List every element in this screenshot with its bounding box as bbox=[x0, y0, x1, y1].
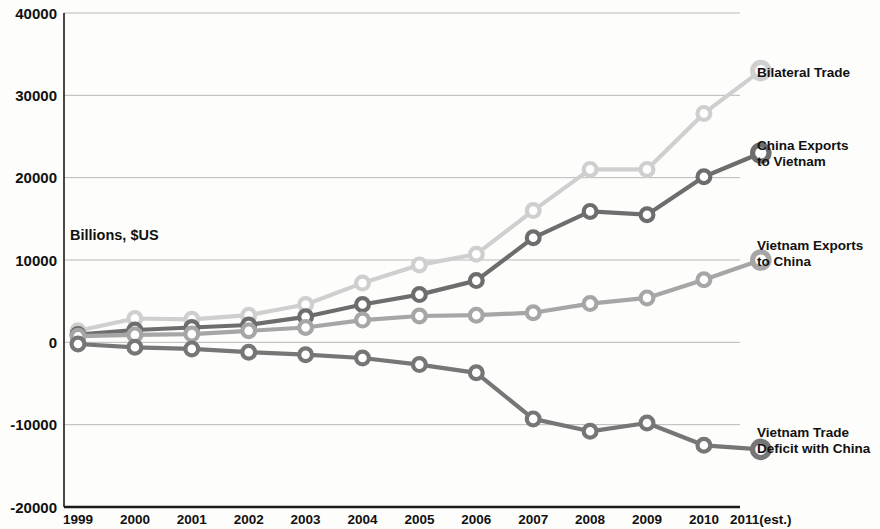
y-gridlines: 400003000020000100000-10000-20000 bbox=[10, 5, 740, 516]
data-point-marker bbox=[584, 205, 597, 218]
x-axis-tick-label: 2007 bbox=[518, 512, 548, 527]
x-axis-tick-label: 2011(est.) bbox=[730, 512, 792, 527]
x-axis-tick-label: 2001 bbox=[177, 512, 208, 527]
data-point-marker bbox=[185, 343, 198, 356]
series-label-2: China Exportsto Vietnam bbox=[757, 138, 849, 169]
series-label-line: to Vietnam bbox=[757, 154, 826, 169]
data-point-marker bbox=[299, 321, 312, 334]
y-axis-unit-note: Billions, $US bbox=[70, 227, 159, 243]
data-point-marker bbox=[527, 413, 540, 426]
series-label-line: to China bbox=[757, 254, 811, 269]
y-axis-tick-label: -20000 bbox=[10, 499, 57, 516]
data-point-marker bbox=[413, 259, 426, 272]
x-axis-tick-label: 2004 bbox=[347, 512, 378, 527]
data-point-marker bbox=[470, 366, 483, 379]
data-point-marker bbox=[584, 297, 597, 310]
series-label-line: Vietnam Trade bbox=[757, 425, 850, 440]
x-axis-tick-label: 2003 bbox=[291, 512, 322, 527]
line-chart: 400003000020000100000-10000-200001999200… bbox=[0, 0, 880, 529]
data-point-marker bbox=[641, 208, 654, 221]
data-point-marker bbox=[242, 324, 255, 337]
series-line bbox=[78, 153, 761, 335]
data-point-marker bbox=[641, 163, 654, 176]
data-point-marker bbox=[413, 310, 426, 323]
series-label-line: China Exports bbox=[757, 138, 849, 153]
series-label-line: Deficit with China bbox=[757, 441, 871, 456]
data-point-marker bbox=[698, 107, 711, 120]
data-point-marker bbox=[129, 341, 142, 354]
data-point-marker bbox=[413, 358, 426, 371]
x-axis-tick-label: 2005 bbox=[404, 512, 435, 527]
data-point-marker bbox=[527, 204, 540, 217]
data-point-marker bbox=[698, 273, 711, 286]
data-point-marker bbox=[584, 163, 597, 176]
x-axis-tick-label: 2009 bbox=[632, 512, 662, 527]
x-axis-tick-label: 1999 bbox=[63, 512, 93, 527]
y-axis-tick-label: -10000 bbox=[10, 416, 57, 433]
series-label-line: Bilateral Trade bbox=[757, 65, 851, 80]
data-point-marker bbox=[242, 346, 255, 359]
data-point-marker bbox=[698, 170, 711, 183]
x-axis-tick-label: 2006 bbox=[461, 512, 492, 527]
series-label-4: Vietnam TradeDeficit with China bbox=[757, 425, 871, 456]
y-axis-tick-label: 20000 bbox=[15, 169, 57, 186]
data-point-marker bbox=[413, 288, 426, 301]
x-axis-tick-label: 2010 bbox=[689, 512, 719, 527]
data-point-marker bbox=[356, 314, 369, 327]
x-axis-tick-label: 2008 bbox=[575, 512, 606, 527]
data-point-marker bbox=[72, 338, 85, 351]
data-point-marker bbox=[527, 231, 540, 244]
data-point-marker bbox=[584, 425, 597, 438]
y-axis-tick-label: 10000 bbox=[15, 252, 57, 269]
y-axis-tick-label: 30000 bbox=[15, 87, 57, 104]
data-point-marker bbox=[299, 348, 312, 361]
data-point-marker bbox=[698, 439, 711, 452]
data-point-marker bbox=[356, 277, 369, 290]
data-point-marker bbox=[527, 306, 540, 319]
series-4 bbox=[72, 338, 769, 458]
series-label-1: Bilateral Trade bbox=[757, 65, 851, 80]
series-label-line: Vietnam Exports bbox=[757, 238, 863, 253]
data-point-marker bbox=[470, 248, 483, 261]
data-point-marker bbox=[470, 309, 483, 322]
data-point-marker bbox=[641, 417, 654, 430]
data-point-marker bbox=[356, 352, 369, 365]
y-axis-tick-label: 40000 bbox=[15, 5, 57, 22]
chart-container: 400003000020000100000-10000-200001999200… bbox=[0, 0, 880, 529]
x-axis-tick-labels: 1999200020012002200320042005200620072008… bbox=[63, 512, 792, 527]
data-point-marker bbox=[356, 298, 369, 311]
x-axis-tick-label: 2000 bbox=[120, 512, 150, 527]
data-point-marker bbox=[185, 328, 198, 341]
data-point-marker bbox=[641, 292, 654, 305]
data-point-marker bbox=[470, 274, 483, 287]
series-label-3: Vietnam Exportsto China bbox=[757, 238, 863, 269]
y-axis-tick-label: 0 bbox=[49, 334, 57, 351]
x-axis-tick-label: 2002 bbox=[234, 512, 264, 527]
